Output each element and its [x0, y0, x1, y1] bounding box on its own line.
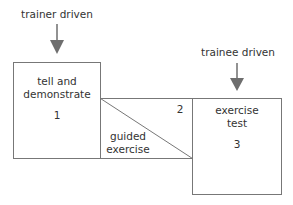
box1-title-line2: demonstrate — [13, 88, 101, 101]
box3-title-line1: exercise — [193, 104, 281, 117]
box1-number: 1 — [13, 109, 101, 122]
box2-number: 2 — [172, 103, 188, 116]
box2-title-line1: guided — [103, 130, 153, 143]
box1-title-line1: tell and — [13, 75, 101, 88]
trainee-driven-label: trainee driven — [196, 46, 280, 59]
box2-title-line2: exercise — [103, 143, 153, 156]
trainer-driven-label: trainer driven — [17, 8, 97, 21]
training-phases-diagram: trainer driven trainee driven tell and d… — [0, 0, 293, 205]
diagram-shapes — [0, 0, 293, 205]
trainee-arrow-icon — [230, 63, 244, 91]
box3-title-line2: test — [193, 117, 281, 130]
trainer-arrow-icon — [50, 24, 64, 54]
box3-number: 3 — [193, 138, 281, 151]
